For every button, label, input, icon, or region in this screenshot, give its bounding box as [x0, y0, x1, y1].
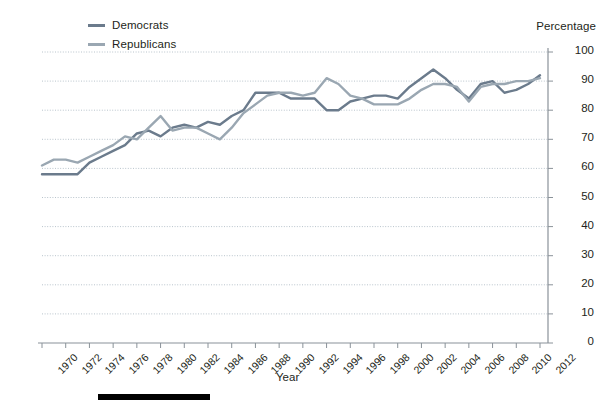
- legend-label-republicans: Republicans: [112, 38, 176, 51]
- legend-label-democrats: Democrats: [112, 19, 169, 32]
- y-tick-label: 0: [560, 335, 594, 347]
- y-tick-label: 60: [560, 160, 594, 172]
- legend-item-republicans: Republicans: [88, 37, 176, 52]
- series-line-democrats: [42, 69, 540, 174]
- chart-legend: Democrats Republicans: [88, 18, 176, 52]
- y-tick-label: 10: [560, 306, 594, 318]
- series-lines: [42, 69, 540, 174]
- bottom-rule-bar: [98, 394, 210, 400]
- chart-canvas: [0, 0, 605, 405]
- y-tick-label: 40: [560, 219, 594, 231]
- line-swatch-icon-democrats: [88, 24, 105, 27]
- y-tick-label: 90: [560, 73, 594, 85]
- y-tick-label: 70: [560, 131, 594, 143]
- y-tick-label: 50: [560, 190, 594, 202]
- gridlines: [42, 52, 548, 314]
- line-swatch-icon-republicans: [88, 43, 105, 46]
- series-line-republicans: [42, 78, 540, 165]
- y-tick-label: 100: [560, 44, 594, 56]
- y-tick-label: 30: [560, 248, 594, 260]
- x-tick-marks: [42, 343, 540, 348]
- y-tick-marks: [548, 52, 553, 343]
- y-axis-title: Percentage: [536, 20, 596, 32]
- legend-item-democrats: Democrats: [88, 18, 176, 33]
- y-tick-label: 80: [560, 102, 594, 114]
- y-tick-label: 20: [560, 277, 594, 289]
- line-chart: Democrats Republicans Percentage Year 01…: [0, 0, 605, 405]
